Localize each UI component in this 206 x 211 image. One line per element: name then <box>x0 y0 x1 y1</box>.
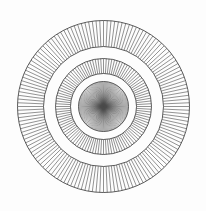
inner-disc <box>79 82 129 132</box>
rings-group <box>18 21 190 193</box>
concentric-ring-diagram <box>0 0 206 211</box>
rings-svg <box>0 0 206 211</box>
